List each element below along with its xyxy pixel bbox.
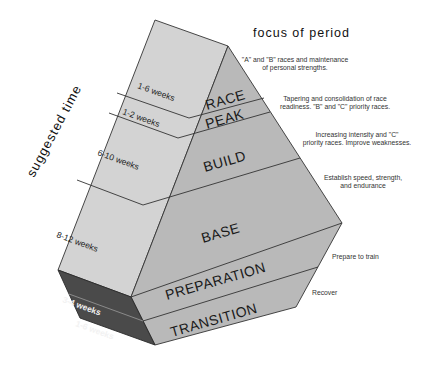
focus-of-period-title: focus of period bbox=[253, 26, 350, 40]
focus-peak-line2: readiness. "B" and "C" priority races. bbox=[280, 103, 390, 111]
focus-build-line2: priority races. Improve weaknesses. bbox=[303, 139, 412, 147]
focus-race-line1: "A" and "B" races and maintenance bbox=[242, 56, 349, 63]
focus-base-line2: and endurance bbox=[340, 182, 386, 189]
focus-race-line2: of personal strengths. bbox=[262, 64, 327, 72]
suggested-time-label: suggested time bbox=[23, 82, 84, 179]
periodization-pyramid-diagram: suggested time 1-6 weeks 1-2 weeks 6-10 … bbox=[0, 0, 431, 372]
focus-transition: Recover bbox=[312, 289, 338, 296]
focus-preparation: Prepare to train bbox=[332, 253, 379, 261]
focus-peak-line1: Tapering and consolidation of race bbox=[283, 95, 387, 103]
focus-base-line1: Establish speed, strength, bbox=[324, 174, 402, 182]
focus-build-line1: Increasing intensity and "C" bbox=[315, 131, 399, 139]
